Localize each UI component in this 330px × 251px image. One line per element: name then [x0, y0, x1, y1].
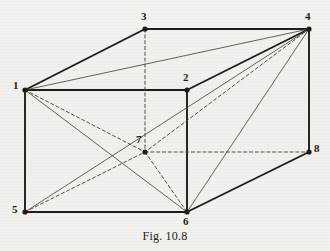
edge-1-3: [25, 29, 145, 90]
edge-2-4: [187, 29, 309, 90]
edge-1-6: [25, 90, 187, 212]
vertex-dot-1: [22, 87, 27, 92]
vertex-label-8: 8: [314, 143, 320, 154]
vertex-label-3: 3: [141, 11, 147, 22]
vertex-dot-6: [184, 209, 189, 214]
vertex-dot-5: [22, 209, 27, 214]
edge-6-8: [187, 152, 309, 212]
parallelepiped-diagram: [0, 0, 330, 251]
vertex-dot-8: [306, 149, 311, 154]
edge-1-4: [25, 29, 309, 90]
edge-5-4: [25, 29, 309, 212]
vertex-label-1: 1: [13, 80, 19, 91]
edge-4-6: [187, 29, 309, 212]
figure-caption: Fig. 10.8: [0, 229, 330, 244]
vertex-dot-7: [142, 149, 147, 154]
edge-7-6: [145, 152, 187, 212]
figure-root: 12345678 Fig. 10.8: [0, 0, 330, 251]
vertex-dot-4: [306, 26, 311, 31]
edge-1-7: [25, 90, 145, 152]
vertex-label-5: 5: [12, 204, 18, 215]
edge-layer: [25, 29, 309, 212]
vertex-label-7: 7: [136, 134, 142, 145]
vertex-label-6: 6: [183, 216, 189, 227]
edge-5-7: [25, 152, 145, 212]
vertex-label-2: 2: [183, 72, 189, 83]
vertex-dot-3: [142, 26, 147, 31]
vertex-label-4: 4: [305, 11, 311, 22]
vertex-dot-2: [184, 87, 189, 92]
